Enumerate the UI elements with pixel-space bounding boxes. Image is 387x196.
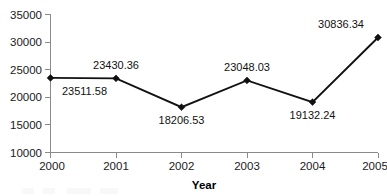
y-tick-label: 30000 — [10, 36, 42, 48]
data-point-label: 23430.36 — [93, 59, 139, 71]
x-axis-tick-labels: 2000 2001 2002 2003 2004 2005 — [39, 160, 387, 172]
data-marker — [113, 75, 120, 82]
data-point-label: 19132.24 — [290, 109, 336, 121]
line-chart: 35000 30000 25000 20000 15000 10000 2000… — [0, 0, 387, 196]
data-marker — [47, 75, 54, 82]
y-tick-label: 10000 — [10, 147, 42, 159]
data-point-labels: 23511.5823430.3618206.5323048.0319132.24… — [62, 18, 364, 126]
x-axis-ticks — [51, 153, 379, 159]
y-tick-label: 25000 — [10, 64, 42, 76]
data-point-label: 23511.58 — [62, 85, 107, 97]
y-tick-label: 35000 — [10, 9, 42, 21]
data-marker — [178, 104, 185, 111]
y-axis-ticks — [45, 15, 51, 153]
x-axis-title: Year — [192, 179, 217, 191]
x-tick-label: 2001 — [103, 160, 129, 172]
data-markers — [47, 34, 381, 111]
x-tick-label: 2000 — [39, 160, 65, 172]
y-tick-label: 20000 — [10, 91, 42, 103]
x-tick-label: 2003 — [234, 160, 260, 172]
chart-canvas: 35000 30000 25000 20000 15000 10000 2000… — [0, 0, 387, 196]
data-point-label: 30836.34 — [318, 18, 364, 30]
data-point-label: 18206.53 — [159, 114, 205, 126]
x-tick-label: 2004 — [300, 160, 326, 172]
data-point-label: 23048.03 — [224, 61, 270, 73]
x-tick-label: 2002 — [169, 160, 195, 172]
x-tick-label: 2005 — [362, 160, 387, 172]
y-axis-tick-labels: 35000 30000 25000 20000 15000 10000 — [10, 9, 42, 159]
data-marker — [244, 77, 251, 84]
y-tick-label: 15000 — [10, 119, 42, 131]
